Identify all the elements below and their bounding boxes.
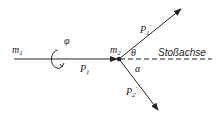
label-stossachse: Stoßachse <box>158 47 206 58</box>
mass-m2-dot <box>117 57 121 61</box>
label-m1: m1 <box>12 44 23 57</box>
label-p1-prime: P1' <box>139 23 152 37</box>
label-p1: P1 <box>79 63 90 76</box>
label-p2-prime: P2' <box>125 85 138 99</box>
label-phi: φ <box>64 35 70 46</box>
label-theta: θ <box>131 47 136 58</box>
label-m2: m2 <box>110 44 121 57</box>
collision-diagram: m1 φ P1 m2 P1' θ Stoßachse α P2' <box>0 0 218 119</box>
label-alpha: α <box>135 63 141 74</box>
